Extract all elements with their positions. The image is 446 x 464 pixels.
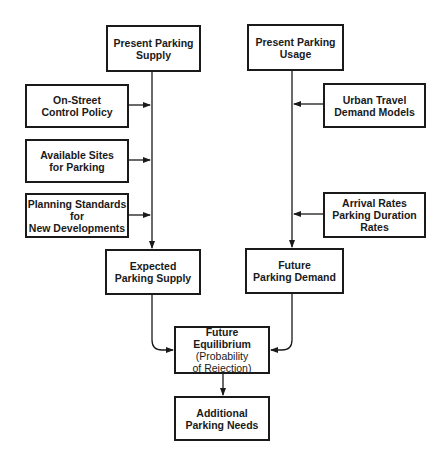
node-label: Urban Travel <box>343 94 407 106</box>
future-parking-demand-box: Future Parking Demand <box>245 248 344 294</box>
node-label: Planning Standards <box>28 198 127 210</box>
additional-parking-needs-box: Additional Parking Needs <box>174 396 270 441</box>
node-label: Usage <box>280 48 312 60</box>
node-label: Present Parking <box>114 37 194 49</box>
node-label: for <box>70 210 84 222</box>
node-label: Demand Models <box>334 106 415 118</box>
on-street-control-policy-box: On-Street Control Policy <box>25 84 129 128</box>
node-label: Future <box>278 259 311 271</box>
node-label: for Parking <box>49 161 104 173</box>
node-label: (Probability <box>196 350 249 362</box>
node-label: Arrival Rates <box>342 197 407 209</box>
arrival-rates-box: Arrival Rates Parking Duration Rates <box>323 192 426 238</box>
future-equilibrium-box: Future Equilibrium (Probability of Rejec… <box>174 326 270 374</box>
node-label: Parking Demand <box>253 271 336 283</box>
urban-travel-demand-models-box: Urban Travel Demand Models <box>323 83 426 128</box>
present-parking-usage-box: Present Parking Usage <box>247 24 344 71</box>
node-label: Future Equilibrium <box>176 326 268 350</box>
node-label: Parking Duration <box>332 209 417 221</box>
node-label: of Rejection) <box>193 362 252 374</box>
node-label: Additional <box>196 407 247 419</box>
node-label: Expected <box>130 260 177 272</box>
node-label: Present Parking <box>256 36 336 48</box>
node-label: Supply <box>136 49 171 61</box>
node-label: Available Sites <box>40 149 114 161</box>
node-label: On-Street <box>53 94 101 106</box>
node-label: Parking Supply <box>115 272 191 284</box>
node-label: New Developments <box>29 222 125 234</box>
node-label: Rates <box>360 221 389 233</box>
planning-standards-box: Planning Standards for New Developments <box>25 193 129 238</box>
node-label: Parking Needs <box>186 419 259 431</box>
present-parking-supply-box: Present Parking Supply <box>106 25 201 72</box>
expected-parking-supply-box: Expected Parking Supply <box>105 249 201 295</box>
available-sites-box: Available Sites for Parking <box>25 139 129 183</box>
node-label: Control Policy <box>41 106 112 118</box>
